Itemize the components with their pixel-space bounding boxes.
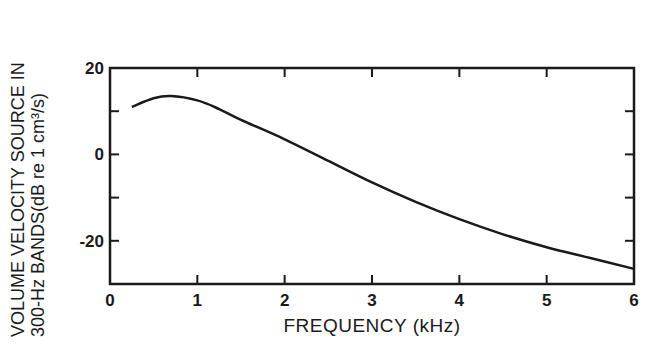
- tick-label: 20: [85, 59, 104, 78]
- tick-label: 2: [280, 291, 289, 310]
- y-axis-title: VOLUME VELOCITY SOURCE IN 300-Hz BANDS(d…: [8, 47, 48, 337]
- tick-label: 3: [367, 291, 376, 310]
- tick-label: 0: [105, 291, 114, 310]
- tick-label: -20: [79, 232, 104, 251]
- tick-label: 5: [542, 291, 551, 310]
- y-axis-title-line2: 300-Hz BANDS(dB re 1 cm³/s): [28, 47, 48, 337]
- tick-marks: [110, 68, 634, 284]
- plot-frame: [110, 68, 634, 284]
- x-axis-title: FREQUENCY (kHz): [283, 315, 460, 336]
- tick-label: 1: [193, 291, 202, 310]
- tick-label: 0: [95, 145, 104, 164]
- y-axis-title-line1: VOLUME VELOCITY SOURCE IN: [8, 47, 28, 337]
- data-line: [132, 96, 634, 269]
- tick-label: 6: [629, 291, 638, 310]
- tick-label: 4: [455, 291, 465, 310]
- chart: 0123456200-20 FREQUENCY (kHz): [0, 0, 665, 355]
